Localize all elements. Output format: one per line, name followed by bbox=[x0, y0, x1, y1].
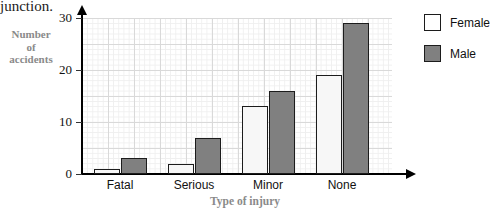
x-axis-label-none: None bbox=[302, 178, 382, 192]
y-axis-title-line-2: of bbox=[0, 41, 62, 54]
bar-serious-male bbox=[195, 138, 221, 174]
y-axis-tick-label: 10 bbox=[50, 114, 72, 130]
bars-layer bbox=[82, 18, 410, 174]
legend: Female Male bbox=[424, 14, 490, 76]
bar-serious-female bbox=[168, 164, 194, 174]
y-axis-title: Number of accidents bbox=[0, 28, 62, 66]
x-axis-label-minor: Minor bbox=[228, 178, 308, 192]
bar-fatal-male bbox=[121, 158, 147, 174]
bar-fatal-female bbox=[94, 169, 120, 174]
bar-minor-male bbox=[269, 91, 295, 174]
legend-item-male: Male bbox=[424, 45, 490, 62]
chart-figure: junction. Number of accidents 0102030 Fa… bbox=[0, 0, 491, 211]
y-axis-tick-label: 0 bbox=[50, 166, 72, 182]
legend-swatch-male-icon bbox=[424, 45, 441, 62]
legend-swatch-female-icon bbox=[424, 14, 441, 31]
x-axis-label-serious: Serious bbox=[154, 178, 234, 192]
y-axis-title-line-1: Number bbox=[0, 28, 62, 41]
y-axis-tick-label: 20 bbox=[50, 62, 72, 78]
legend-label-female: Female bbox=[450, 16, 490, 30]
bar-none-male bbox=[343, 23, 369, 174]
legend-label-male: Male bbox=[450, 47, 476, 61]
y-axis-arrow-icon bbox=[77, 5, 87, 15]
truncated-text-fragment: junction. bbox=[0, 0, 53, 15]
x-axis-label-fatal: Fatal bbox=[80, 178, 160, 192]
y-axis-tick-label: 30 bbox=[50, 10, 72, 26]
y-axis-tick bbox=[76, 174, 82, 175]
bar-none-female bbox=[316, 75, 342, 174]
x-axis-title: Type of injury bbox=[160, 195, 330, 207]
legend-item-female: Female bbox=[424, 14, 490, 31]
bar-minor-female bbox=[242, 106, 268, 174]
